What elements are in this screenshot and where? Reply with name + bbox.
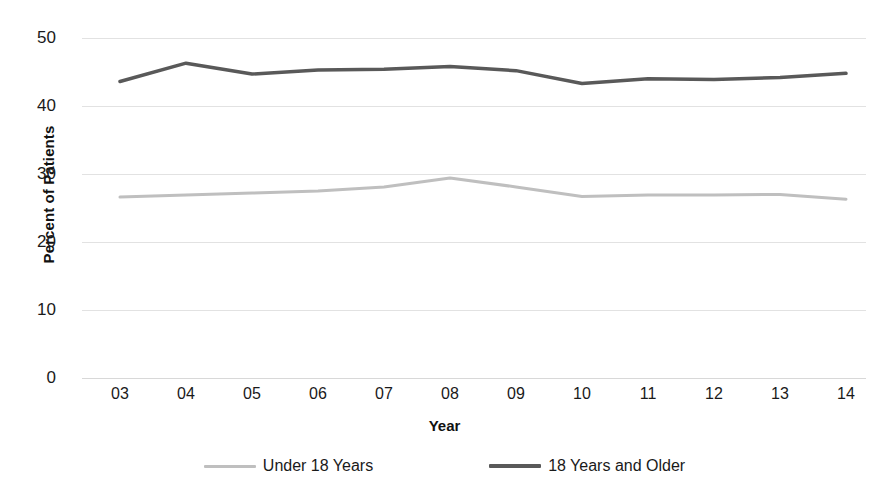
series-line-18-years-and-older: [120, 63, 846, 83]
x-tick-label-09: 09: [491, 386, 541, 402]
series-line-under-18-years: [120, 178, 846, 199]
chart-legend: Under 18 Years18 Years and Older: [0, 452, 889, 480]
legend-label: Under 18 Years: [263, 457, 373, 475]
legend-item-under-18-years[interactable]: Under 18 Years: [204, 457, 373, 475]
x-axis-tick-labels: 030405060708091011121314: [82, 386, 866, 412]
series-lines: [82, 38, 866, 378]
x-tick-label-06: 06: [293, 386, 343, 402]
x-tick-label-07: 07: [359, 386, 409, 402]
x-tick-label-13: 13: [755, 386, 805, 402]
legend-swatch-icon: [489, 464, 541, 468]
y-tick-label-50: 50: [10, 29, 56, 46]
y-axis-tick-labels: 01020304050: [10, 0, 56, 483]
y-tick-label-40: 40: [10, 97, 56, 114]
x-tick-label-05: 05: [227, 386, 277, 402]
legend-label: 18 Years and Older: [548, 457, 685, 475]
x-tick-label-11: 11: [623, 386, 673, 402]
line-chart: Percent of Patients 01020304050 03040506…: [0, 0, 889, 483]
x-tick-label-04: 04: [161, 386, 211, 402]
x-tick-label-12: 12: [689, 386, 739, 402]
plot-area: [82, 38, 866, 378]
gridline-0: [82, 378, 866, 379]
legend-item-18-years-and-older[interactable]: 18 Years and Older: [489, 457, 685, 475]
y-tick-label-30: 30: [10, 165, 56, 182]
y-tick-label-20: 20: [10, 233, 56, 250]
x-axis-title: Year: [0, 417, 889, 434]
y-tick-label-10: 10: [10, 301, 56, 318]
legend-swatch-icon: [204, 465, 256, 468]
x-tick-label-03: 03: [95, 386, 145, 402]
x-tick-label-10: 10: [557, 386, 607, 402]
x-tick-label-14: 14: [821, 386, 871, 402]
y-tick-label-0: 0: [10, 369, 56, 386]
x-tick-label-08: 08: [425, 386, 475, 402]
